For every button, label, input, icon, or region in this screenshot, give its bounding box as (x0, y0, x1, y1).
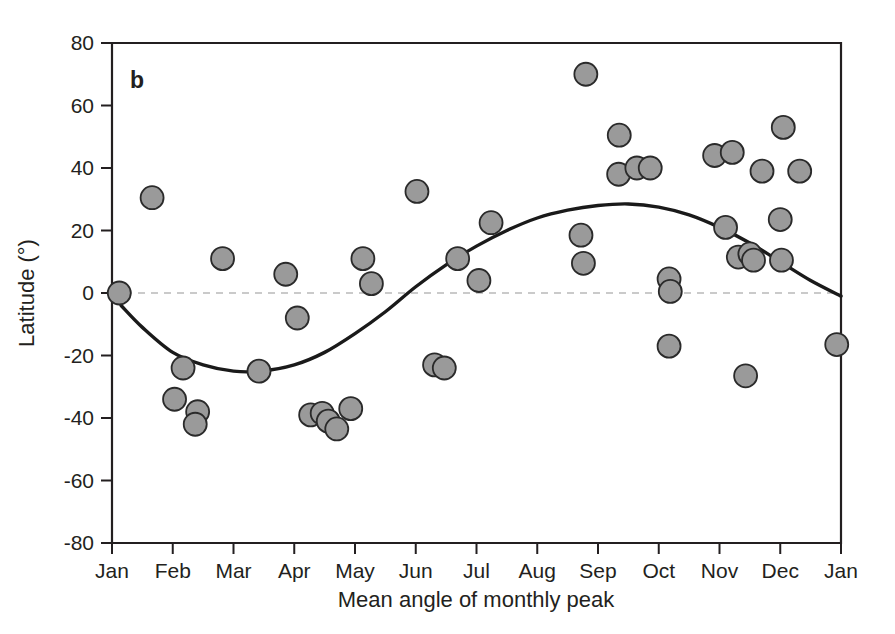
y-tick-label: 80 (71, 31, 94, 54)
data-point (286, 307, 309, 330)
x-tick-label: Feb (155, 559, 191, 582)
chart-page: 806040200-20-40-60-80 JanFebMarAprMayJun… (0, 0, 895, 634)
x-tick-label: Jan (824, 559, 858, 582)
data-point (184, 413, 207, 436)
y-tick-label: 0 (82, 281, 94, 304)
data-point (325, 417, 348, 440)
y-axis-title: Latitude (°) (14, 239, 39, 347)
data-point (108, 282, 131, 305)
chart-background (0, 0, 895, 634)
data-point (405, 180, 428, 203)
data-point (659, 280, 682, 303)
data-point (714, 216, 737, 239)
data-point (751, 160, 774, 183)
data-point (572, 252, 595, 275)
panel-label: b (130, 67, 144, 93)
x-tick-label: Dec (762, 559, 799, 582)
data-point (339, 397, 362, 420)
data-point (172, 357, 195, 380)
y-tick-label: -40 (64, 406, 94, 429)
y-tick-label: -20 (64, 344, 94, 367)
data-point (433, 357, 456, 380)
data-point (141, 186, 164, 209)
x-tick-label: Apr (278, 559, 311, 582)
x-tick-label: Jan (95, 559, 129, 582)
data-point (351, 247, 374, 270)
data-point (639, 157, 662, 180)
data-point (658, 335, 681, 358)
data-point (163, 388, 186, 411)
data-point (360, 272, 383, 295)
scatter-plot: 806040200-20-40-60-80 JanFebMarAprMayJun… (0, 0, 895, 634)
x-tick-label: Jul (463, 559, 490, 582)
x-tick-label: Aug (519, 559, 556, 582)
data-point (446, 247, 469, 270)
y-tick-label: 40 (71, 156, 94, 179)
y-tick-label: -80 (64, 531, 94, 554)
data-point (825, 333, 848, 356)
x-tick-label: Nov (701, 559, 739, 582)
data-point (788, 160, 811, 183)
data-point (480, 211, 503, 234)
y-tick-label: 20 (71, 219, 94, 242)
data-point (742, 249, 765, 272)
data-point (769, 208, 792, 231)
data-point (770, 249, 793, 272)
x-axis-title: Mean angle of monthly peak (338, 587, 615, 612)
x-tick-label: Oct (642, 559, 675, 582)
data-point (721, 141, 744, 164)
x-tick-label: Jun (399, 559, 433, 582)
data-point (467, 269, 490, 292)
data-point (574, 63, 597, 86)
data-point (608, 124, 631, 147)
y-tick-label: 60 (71, 94, 94, 117)
data-point (211, 247, 234, 270)
x-tick-label: Sep (579, 559, 616, 582)
data-point (569, 224, 592, 247)
x-tick-label: May (335, 559, 375, 582)
y-tick-label: -60 (64, 469, 94, 492)
data-point (248, 360, 271, 383)
data-point (274, 263, 297, 286)
data-point (734, 364, 757, 387)
data-point (772, 116, 795, 139)
x-tick-label: Mar (215, 559, 251, 582)
